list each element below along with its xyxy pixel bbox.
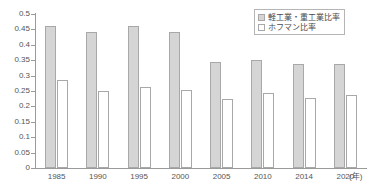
y-tick: 0.45: [0, 29, 30, 30]
y-tick: 0.15: [0, 122, 30, 123]
chart-legend: 軽工業・重工業比率 ホフマン比率: [254, 9, 345, 35]
bar-2014-series1: [293, 64, 304, 168]
bar-1995-series1: [128, 26, 139, 168]
bar-2010-series1: [251, 60, 262, 168]
y-tick-mark: [31, 14, 35, 15]
y-tick-label: 0: [26, 164, 30, 172]
x-tick-label: 2000: [160, 172, 200, 181]
legend-label-primary: 軽工業・重工業比率: [268, 13, 340, 22]
y-tick: 0.35: [0, 60, 30, 61]
x-tick-label: 2005: [202, 172, 242, 181]
x-tick-label: 1990: [78, 172, 118, 181]
y-tick: 0.05: [0, 153, 30, 154]
bar-2005-series1: [210, 62, 221, 168]
bar-2020-series1: [334, 64, 345, 168]
bar-chart: 0.50.450.40.350.30.250.20.150.10.050 198…: [0, 0, 377, 192]
bar-2020-series2: [346, 95, 357, 168]
legend-swatch-primary-icon: [258, 14, 265, 21]
y-tick-label: 0.05: [14, 149, 30, 157]
legend-item-primary: 軽工業・重工業比率: [258, 12, 340, 22]
bar-2000-series1: [169, 32, 180, 168]
y-tick-mark: [31, 91, 35, 92]
y-tick-mark: [31, 122, 35, 123]
x-tick-label: 1985: [37, 172, 77, 181]
bar-1985-series2: [57, 80, 68, 168]
plot-area: [36, 14, 366, 168]
y-tick-mark: [31, 29, 35, 30]
y-tick-mark: [31, 153, 35, 154]
x-axis-line: [35, 168, 367, 169]
y-tick: 0.3: [0, 76, 30, 77]
y-tick-mark: [31, 60, 35, 61]
y-tick-label: 0.4: [19, 41, 30, 49]
bar-2014-series2: [305, 98, 316, 168]
y-tick-mark: [31, 106, 35, 107]
y-tick-mark: [31, 137, 35, 138]
bar-1990-series1: [86, 32, 97, 168]
y-tick-label: 0.3: [19, 72, 30, 80]
x-tick-label: 2010: [243, 172, 283, 181]
y-tick-label: 0.25: [14, 87, 30, 95]
bar-1995-series2: [140, 87, 151, 168]
y-tick-mark: [31, 76, 35, 77]
y-tick-label: 0.15: [14, 118, 30, 126]
y-tick: 0.5: [0, 14, 30, 15]
legend-label-secondary: ホフマン比率: [268, 23, 316, 32]
y-tick: 0: [0, 168, 30, 169]
bar-2010-series2: [263, 93, 274, 168]
bar-1990-series2: [98, 91, 109, 168]
legend-swatch-secondary-icon: [258, 24, 265, 31]
y-tick-label: 0.45: [14, 25, 30, 33]
y-tick: 0.4: [0, 45, 30, 46]
y-tick: 0.2: [0, 106, 30, 107]
y-tick: 0.25: [0, 91, 30, 92]
y-tick-label: 0.2: [19, 102, 30, 110]
y-tick-mark: [31, 168, 35, 169]
y-tick-label: 0.35: [14, 56, 30, 64]
legend-item-secondary: ホフマン比率: [258, 22, 340, 32]
x-tick-label: 2014: [284, 172, 324, 181]
bar-2000-series2: [181, 90, 192, 168]
y-tick-label: 0.5: [19, 10, 30, 18]
y-tick-label: 0.1: [19, 133, 30, 141]
x-tick-label: 1995: [119, 172, 159, 181]
bar-1985-series1: [45, 26, 56, 168]
y-tick-mark: [31, 45, 35, 46]
bar-2005-series2: [222, 99, 233, 168]
x-axis-unit-label: (年): [349, 172, 362, 181]
y-tick: 0.1: [0, 137, 30, 138]
